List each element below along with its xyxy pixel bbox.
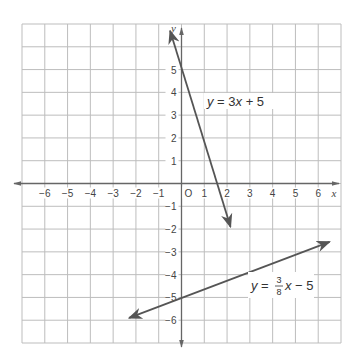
y-tick-label: 2 [171,133,177,144]
x-tick-label: −1 [153,188,165,199]
x-tick-label: 5 [293,188,299,199]
x-tick-label: −2 [130,188,142,199]
x-tick-label: −5 [62,188,74,199]
coordinate-plane: −6−5−4−3−2−112345654321−1−2−3−4−5−6Oxy y… [0,0,355,358]
equation-label-2: y = 38x − 5 [248,272,314,298]
y-tick-label: 4 [171,87,177,98]
y-tick-label: −4 [165,270,177,281]
x-tick-label: −4 [85,188,97,199]
y-tick-label: 5 [171,65,177,76]
x-tick-label: 4 [270,188,276,199]
svg-text:y = 3x + 5: y = 3x + 5 [206,94,264,109]
y-tick-label: −2 [165,224,177,235]
svg-text:8: 8 [276,287,281,297]
x-axis-label: x [331,187,337,199]
svg-text:x − 5: x − 5 [284,278,314,293]
x-tick-label: 6 [315,188,321,199]
x-tick-label: 3 [247,188,253,199]
svg-text:3: 3 [276,275,281,285]
y-tick-label: 3 [171,110,177,121]
x-tick-label: −6 [39,188,51,199]
origin-label: O [185,188,193,199]
y-tick-label: 1 [171,156,177,167]
x-tick-label: 2 [224,188,230,199]
y-tick-label: −3 [165,247,177,258]
x-tick-label: 1 [202,188,208,199]
y-tick-label: −6 [165,315,177,326]
y-tick-label: −1 [165,201,177,212]
equation-label-1: y = 3x + 5 [204,93,274,109]
svg-text:y =: y = [250,278,269,293]
x-tick-label: −3 [107,188,119,199]
